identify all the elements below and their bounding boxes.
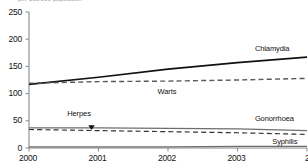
y-axis-tick-label: 150 xyxy=(0,61,22,71)
series-label-herpes: Herpes xyxy=(67,109,91,118)
series-label-syphilis: Syphilis xyxy=(272,137,297,146)
y-axis-tick-label: 50 xyxy=(0,115,22,125)
plot-area xyxy=(0,0,308,166)
series-label-chlamydia: Chlamydia xyxy=(255,44,290,53)
series-label-warts: Warts xyxy=(158,87,177,96)
x-axis-tick-label: 2003 xyxy=(228,153,246,163)
y-axis-tick-label: 0 xyxy=(0,143,22,153)
series-line-syphilis xyxy=(29,146,307,147)
sti-incidence-line-chart: per 100,000 population 05010015020025020… xyxy=(0,0,308,166)
series-line-herpes xyxy=(29,130,307,135)
series-label-gonorrhoea: Gonorrhoea xyxy=(255,114,294,123)
x-axis-tick-label: 2002 xyxy=(158,153,176,163)
x-axis-tick-label: 200 xyxy=(305,153,308,163)
y-axis-tick-label: 250 xyxy=(0,7,22,17)
y-axis-tick-label: 100 xyxy=(0,88,22,98)
x-axis-tick-label: 2000 xyxy=(19,153,37,163)
x-axis-tick-label: 2001 xyxy=(89,153,107,163)
y-axis-tick-label: 200 xyxy=(0,34,22,44)
series-line-chlamydia xyxy=(29,57,307,84)
